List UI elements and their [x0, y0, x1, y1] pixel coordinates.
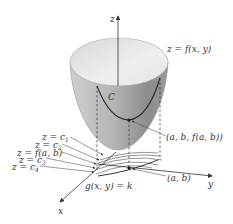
constraint-label: g(x, y) = k: [85, 181, 132, 191]
y-axis-label: y: [207, 179, 214, 189]
curve-c-label: C: [108, 92, 115, 102]
point-2d: [127, 166, 130, 169]
leader-c4: [40, 166, 94, 172]
leader-2d: [133, 169, 166, 176]
y-axis: [98, 164, 212, 176]
leader-c3: [46, 158, 95, 168]
point-2d-label: (a, b): [167, 173, 191, 183]
lagrange-diagram: z y x z = f(x, y) C (a, b, f(a, b)) (a, …: [0, 0, 233, 224]
paraboloid-rim: [70, 38, 168, 86]
level-curves: [95, 152, 162, 174]
x-axis: [60, 152, 116, 202]
level-label-c4: z = c4: [11, 162, 39, 173]
point-3d-label: (a, b, f(a, b)): [166, 132, 223, 142]
x-axis-label: x: [58, 206, 63, 216]
leader-c2: [62, 144, 99, 160]
z-axis-label: z: [109, 14, 115, 24]
surface-label: z = f(x, y): [166, 44, 212, 54]
point-3d: [127, 118, 130, 121]
